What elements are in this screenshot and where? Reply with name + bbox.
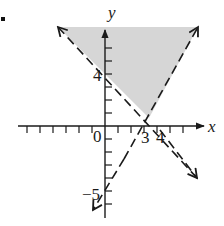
dashed-boundary-line-1-lower-arrow [160, 130, 197, 178]
inequality-graph: y x 0 3 4 4 −5 [0, 0, 224, 226]
y-tick-label-neg5: −5 [82, 186, 100, 203]
x-tick-label-3: 3 [141, 129, 150, 146]
shaded-solution-region [58, 27, 198, 118]
x-tick-label-4: 4 [156, 129, 165, 146]
graph-canvas [0, 0, 224, 226]
origin-label: 0 [93, 128, 102, 145]
y-axis-label: y [108, 4, 116, 21]
problem-bullet [1, 17, 5, 21]
y-tick-label-4: 4 [93, 67, 102, 84]
x-axis-label: x [208, 118, 216, 135]
